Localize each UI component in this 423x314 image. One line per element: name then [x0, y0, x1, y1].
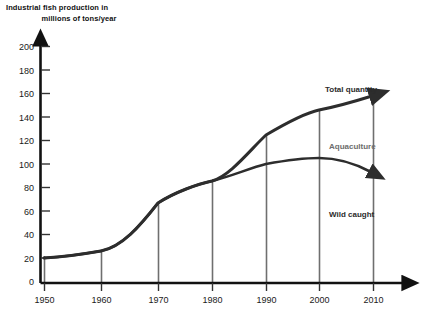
x-tick-label: 2010: [363, 295, 383, 305]
y-tick-label: 100: [19, 160, 34, 170]
y-tick-label: 60: [24, 207, 34, 217]
fish-production-chart: Industrial fish production in millions o…: [0, 0, 423, 314]
chart-canvas: 200 180 160 140 120 100 80 60 40 20 0 19…: [0, 0, 423, 314]
y-tick-labels: 200 180 160 140 120 100 80 60 40 20 0: [19, 42, 34, 287]
y-tick-label: 20: [24, 254, 34, 264]
y-tick-label: 200: [19, 42, 34, 52]
x-tick-label: 1960: [91, 295, 111, 305]
label-aquaculture: Aquaculture: [329, 142, 376, 151]
decade-connectors: [45, 96, 374, 283]
x-tick-label: 1990: [256, 295, 276, 305]
y-tick-label: 80: [24, 183, 34, 193]
y-axis-ticks: [41, 47, 50, 259]
y-tick-label: 140: [19, 113, 34, 123]
label-wild-caught: Wild caught: [329, 210, 375, 219]
x-tick-labels: 1950 1960 1970 1980 1990 2000 2010: [34, 295, 383, 305]
label-total-quantity: Total quantity: [325, 85, 377, 94]
x-tick-label: 1980: [202, 295, 222, 305]
y-tick-label: 160: [19, 89, 34, 99]
y-tick-label: 0: [29, 277, 34, 287]
y-tick-label: 180: [19, 66, 34, 76]
wild-caught-curve: [44, 158, 371, 258]
x-tick-label: 1950: [34, 295, 54, 305]
y-tick-label: 40: [24, 230, 34, 240]
y-tick-label: 120: [19, 136, 34, 146]
total-quantity-curve: [44, 96, 372, 258]
x-tick-label: 2000: [309, 295, 329, 305]
x-tick-label: 1970: [148, 295, 168, 305]
